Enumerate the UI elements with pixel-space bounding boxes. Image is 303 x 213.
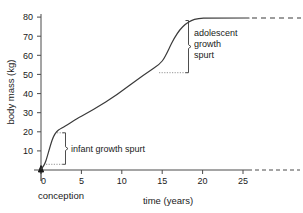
- x-tick-label-0: 0: [41, 176, 46, 186]
- adolescent-spurt-brace: [186, 21, 192, 73]
- y-tick-label-30: 30: [23, 108, 33, 118]
- x-axis-title: time (years): [143, 195, 193, 206]
- y-tick-label-50: 50: [23, 70, 33, 80]
- growth-curve-chart: 10 20 30 40 50 60 70 80 0 5 10 15 20 25 …: [0, 0, 303, 213]
- x-tick-label-20: 20: [198, 176, 208, 186]
- conception-label: conception: [38, 190, 84, 201]
- infant-spurt-leaders: [46, 133, 64, 165]
- adolescent-growth-spurt-label-line-2: growth: [194, 39, 221, 49]
- y-tick-label-10: 10: [23, 146, 33, 156]
- x-axis-ticks: [41, 170, 243, 174]
- infant-spurt-brace: [63, 133, 69, 165]
- y-tick-label-40: 40: [23, 89, 33, 99]
- y-tick-label-20: 20: [23, 127, 33, 137]
- adolescent-growth-spurt-label-line-1: adolescent: [194, 28, 238, 38]
- x-tick-label-10: 10: [117, 176, 127, 186]
- y-axis-ticks: [37, 17, 41, 151]
- y-axis-title: body mass (kg): [5, 60, 16, 125]
- adolescent-growth-spurt-label-line-3: spurt: [194, 50, 215, 60]
- y-tick-label-70: 70: [23, 32, 33, 42]
- x-tick-label-15: 15: [157, 176, 167, 186]
- infant-growth-spurt-label: infant growth spurt: [71, 144, 146, 154]
- y-tick-label-80: 80: [23, 12, 33, 22]
- chart-canvas: 10 20 30 40 50 60 70 80 0 5 10 15 20 25 …: [0, 0, 303, 213]
- x-tick-label-5: 5: [79, 176, 84, 186]
- x-tick-label-25: 25: [238, 176, 248, 186]
- y-tick-label-60: 60: [23, 51, 33, 61]
